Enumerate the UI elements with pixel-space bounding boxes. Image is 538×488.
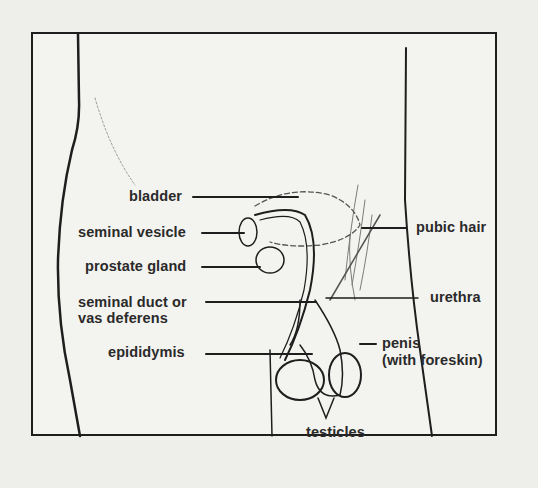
testicle-left — [276, 360, 324, 400]
label-vas-deferens: vas deferens — [78, 310, 168, 327]
label-testicles: testicles — [306, 424, 365, 441]
label-with-foreskin: (with foreskin) — [382, 352, 483, 369]
label-pubic-hair: pubic hair — [416, 219, 486, 236]
label-seminal-vesicle: seminal vesicle — [78, 224, 186, 241]
label-bladder: bladder — [129, 188, 182, 205]
label-penis: penis — [382, 335, 420, 352]
inner-thigh-line — [270, 350, 272, 436]
prostate — [256, 247, 284, 273]
body-outline-left — [58, 34, 80, 436]
anatomy-illustration — [0, 0, 538, 488]
label-urethra: urethra — [430, 289, 481, 306]
label-epididymis: epididymis — [108, 344, 185, 361]
label-prostate-gland: prostate gland — [85, 258, 186, 275]
body-outline-right — [405, 48, 432, 436]
label-seminal-duct: seminal duct or — [78, 294, 187, 311]
testicle-right — [329, 353, 361, 397]
